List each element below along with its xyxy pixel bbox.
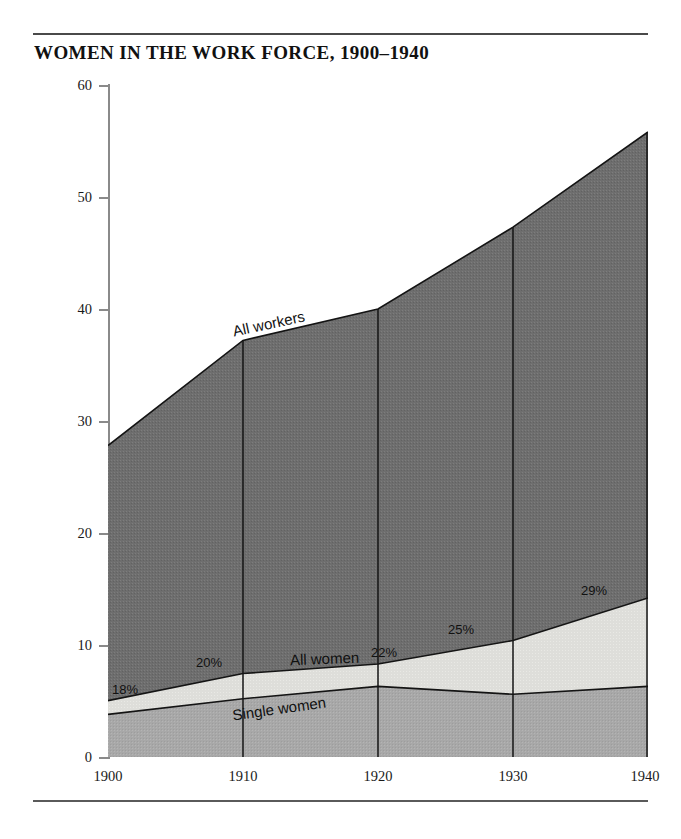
y-tick-0 <box>99 757 108 759</box>
y-axis-label-0: 0 <box>52 749 92 766</box>
bottom-rule <box>33 800 648 802</box>
annotation-25-percent: 25% <box>448 622 474 637</box>
y-tick-10 <box>99 645 108 647</box>
x-axis-label-1930: 1930 <box>478 768 548 785</box>
annotation-22-percent: 22% <box>371 645 397 660</box>
annotation-20-percent: 20% <box>196 655 222 670</box>
chart-page: WOMEN IN THE WORK FORCE, 1900–1940 60 50… <box>0 0 681 839</box>
y-axis-label-40: 40 <box>52 301 92 318</box>
x-axis-label-1910: 1910 <box>208 768 278 785</box>
top-rule <box>33 33 648 35</box>
y-axis-label-20: 20 <box>52 525 92 542</box>
y-tick-20 <box>99 533 108 535</box>
y-tick-60 <box>99 85 108 87</box>
x-axis-label-1940: 1940 <box>610 768 680 785</box>
band-label-all-women: All women <box>290 649 360 668</box>
y-tick-50 <box>99 197 108 199</box>
annotation-18-percent: 18% <box>112 682 138 697</box>
y-tick-30 <box>99 421 108 423</box>
y-axis-label-50: 50 <box>52 189 92 206</box>
y-axis-label-30: 30 <box>52 413 92 430</box>
x-axis-label-1920: 1920 <box>343 768 413 785</box>
annotation-29-percent: 29% <box>581 583 607 598</box>
chart-title: WOMEN IN THE WORK FORCE, 1900–1940 <box>34 42 429 64</box>
y-axis-label-10: 10 <box>52 637 92 654</box>
y-axis-label-60: 60 <box>52 77 92 94</box>
y-tick-40 <box>99 309 108 311</box>
x-axis-label-1900: 1900 <box>73 768 143 785</box>
